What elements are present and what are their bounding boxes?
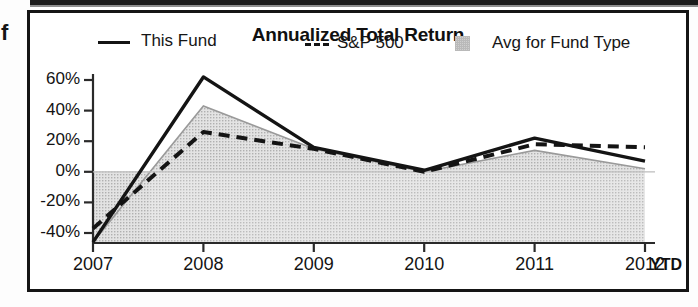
x-axis-tick-label: 2011 <box>490 254 580 275</box>
y-axis-tick-label: 40% <box>22 100 80 120</box>
x-axis-tick-label: 2007 <box>48 254 138 275</box>
y-axis-tick-label: 20% <box>22 130 80 150</box>
y-axis-tick-label: 60% <box>22 69 80 89</box>
y-axis-tick-label: -20% <box>22 191 80 211</box>
x-axis-tick-label: 2010 <box>379 254 469 275</box>
x-axis-tick-label: 2009 <box>269 254 359 275</box>
x-axis-ytd-note: YTD <box>650 256 682 274</box>
x-axis-tick-label: 2008 <box>158 254 248 275</box>
plot-area: 60%40%20%0%-20%-40% 20072008200920102011… <box>0 0 698 307</box>
y-axis-tick-label: 0% <box>22 161 80 181</box>
y-axis-tick-label: -40% <box>22 222 80 242</box>
